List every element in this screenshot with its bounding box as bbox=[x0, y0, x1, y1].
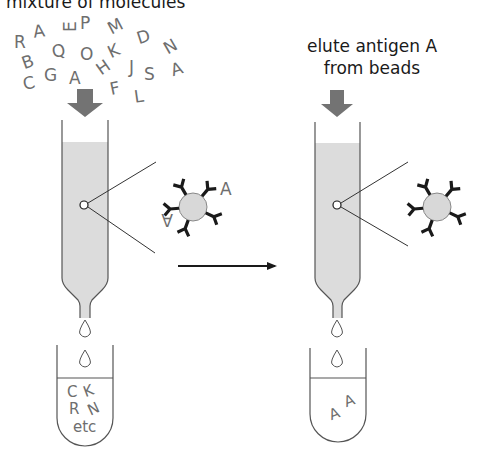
molecule-letter: D bbox=[134, 25, 153, 48]
molecule-letter: J bbox=[128, 57, 134, 77]
droplet-icon bbox=[332, 350, 343, 367]
molecule-mixture: RAEPMDNBQOKCGAHJSAFL bbox=[14, 13, 186, 107]
molecule-letter: E bbox=[60, 21, 80, 32]
molecule-r: R bbox=[69, 400, 79, 418]
molecule-letter: N bbox=[160, 34, 181, 58]
droplet-icon bbox=[332, 320, 343, 337]
molecule-letter: B bbox=[19, 50, 37, 73]
bound-antigen-a: A bbox=[161, 210, 173, 230]
elute-label-line1: elute antigen A bbox=[307, 36, 437, 56]
molecule-letter: F bbox=[108, 77, 122, 99]
droplet-icon bbox=[80, 350, 91, 367]
bead-zoom-marker bbox=[333, 201, 341, 209]
left-column: C K R N etc bbox=[57, 89, 156, 446]
down-arrow-icon bbox=[321, 90, 353, 117]
molecule-letter: Q bbox=[50, 39, 67, 61]
etc-label: etc bbox=[73, 418, 96, 436]
molecule-letter: G bbox=[44, 65, 57, 85]
molecule-n: N bbox=[85, 398, 103, 419]
right-column: A A bbox=[310, 90, 408, 442]
bead-with-antibodies-bound: A A bbox=[161, 179, 232, 236]
molecule-letter: C bbox=[21, 72, 37, 94]
bead-zoom-marker bbox=[80, 201, 88, 209]
molecule-letter: A bbox=[168, 57, 186, 80]
molecule-letter: R bbox=[14, 32, 26, 52]
bound-antigen-a: A bbox=[220, 179, 232, 199]
molecule-letter: L bbox=[133, 85, 146, 106]
down-arrow-icon bbox=[67, 89, 103, 117]
bead-with-antibodies-empty bbox=[408, 179, 466, 236]
molecule-letter: A bbox=[69, 68, 81, 88]
eluted-antigen-a: A bbox=[342, 390, 358, 411]
molecule-letter: O bbox=[80, 44, 93, 64]
eluted-antigen-a: A bbox=[327, 403, 343, 424]
droplet-icon bbox=[80, 320, 91, 337]
affinity-chromatography-diagram: mixture of molecules RAEPMDNBQOKCGAHJSAF… bbox=[0, 0, 477, 452]
elute-label-line2: from beads bbox=[324, 58, 420, 78]
molecule-letter: K bbox=[104, 39, 123, 62]
molecule-k: K bbox=[81, 380, 97, 401]
molecule-letter: S bbox=[144, 64, 155, 84]
title-label: mixture of molecules bbox=[6, 0, 185, 12]
molecule-letter: P bbox=[80, 13, 90, 33]
molecule-c: C bbox=[67, 383, 77, 401]
molecule-letter: A bbox=[32, 20, 47, 41]
molecule-letter: M bbox=[104, 14, 126, 39]
